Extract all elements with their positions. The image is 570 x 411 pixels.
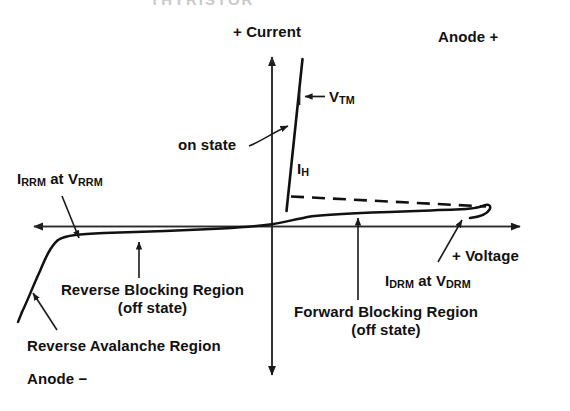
y-axis-label-current: + Current (233, 23, 301, 41)
i-drm-label-subscript: DRM (389, 278, 414, 290)
i-drm-label-subscript-2: DRM (446, 278, 471, 290)
i-h-label: IH (297, 160, 309, 179)
v-tm-label-subscript: TM (339, 94, 355, 106)
on-state-leader-line (249, 126, 288, 146)
i-rrm-label-subscript-2: RRM (78, 176, 103, 188)
reverse-blocking-region-line2: (off state) (45, 299, 260, 317)
reverse-avalanche-region-label: Reverse Avalanche Region (27, 337, 221, 355)
reverse-blocking-region-label: Reverse Blocking Region (off state) (45, 281, 260, 316)
i-drm-label-mid: at V (414, 272, 446, 289)
forward-blocking-region-label: Forward Blocking Region (off state) (277, 303, 495, 338)
i-h-label-subscript: H (301, 166, 309, 178)
thyristor-iv-characteristic-figure: THYRISTOR (0, 0, 570, 411)
x-axis-label-voltage: + Voltage (452, 247, 519, 265)
i-drm-label: IDRM at VDRM (385, 272, 471, 291)
i-rrm-label: IRRM at VRRM (17, 170, 103, 189)
i-rrm-leader-line (62, 196, 79, 238)
anode-negative-label: Anode − (27, 370, 87, 388)
i-rrm-label-mid: at V (46, 170, 78, 187)
holding-current-dashed-line (291, 197, 486, 207)
reverse-avalanche-tail (18, 312, 22, 322)
v-tm-measure-arrow (300, 89, 326, 105)
anode-positive-label: Anode + (438, 28, 498, 46)
v-tm-label: VTM (329, 88, 355, 107)
forward-blocking-region-line1: Forward Blocking Region (277, 303, 495, 321)
v-tm-label-base: V (329, 88, 339, 105)
i-rrm-label-subscript: RRM (21, 176, 46, 188)
on-state-label: on state (178, 136, 236, 154)
reverse-blocking-region-line1: Reverse Blocking Region (45, 281, 260, 299)
forward-blocking-region-line2: (off state) (277, 321, 495, 339)
on-state-line (287, 59, 303, 211)
